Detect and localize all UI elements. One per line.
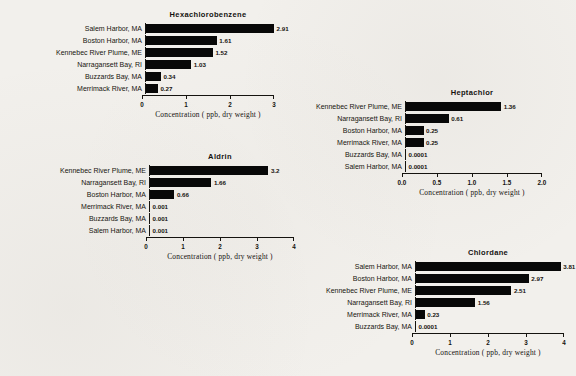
x-tick-label: 1: [448, 338, 452, 347]
bar-track: 2.91: [145, 23, 278, 34]
bar-track: 0.0001: [415, 321, 568, 332]
bar-row: Salem Harbor, MA0.0001: [262, 161, 546, 172]
x-tick-labels: 0123: [142, 100, 274, 109]
bar-track: 3.81: [415, 261, 568, 272]
x-tick: [230, 96, 231, 99]
x-tick-label: 2: [486, 338, 490, 347]
bar-row: Boston Harbor, MA0.66: [6, 189, 298, 200]
x-tick-label: 3: [524, 338, 528, 347]
bar: [150, 178, 211, 186]
x-tick: [563, 334, 564, 337]
bar-row: Merrimack River, MA0.25: [262, 137, 546, 148]
bar: [406, 114, 449, 122]
category-label: Narragansett Bay, RI: [14, 59, 145, 70]
x-tick: [220, 238, 221, 241]
bar: [406, 126, 424, 134]
bar-track: 2.51: [415, 285, 568, 296]
chart-title: Aldrin: [146, 152, 294, 161]
bar-value-label: 0.27: [158, 83, 173, 94]
x-tick: [293, 238, 294, 241]
bar-track: 1.56: [415, 297, 568, 308]
bar-track: 1.36: [405, 101, 546, 112]
bar-value-label: 0.66: [174, 189, 189, 200]
bar-value-label: 0.25: [424, 137, 439, 148]
bar-row: Boston Harbor, MA2.97: [272, 273, 568, 284]
bar-track: 0.25: [405, 137, 546, 148]
chart-title: Hexachlorobenzene: [142, 10, 274, 19]
bar: [146, 48, 213, 56]
x-axis-label: Concentration ( ppb, dry weight ): [402, 188, 542, 197]
bar: [150, 190, 174, 198]
bar-row: Kennebec River Plume, ME1.36: [262, 101, 546, 112]
bar-row: Merrimack River, MA0.23: [272, 309, 568, 320]
bar-value-label: 2.97: [529, 273, 544, 284]
x-tick-label: 3: [255, 242, 259, 251]
x-tick-label: 0.5: [433, 178, 442, 187]
chart-panel-chlordane: ChlordaneSalem Harbor, MA3.81Boston Harb…: [272, 248, 568, 357]
category-label: Merrimack River, MA: [262, 137, 405, 148]
bar-track: 0.27: [145, 83, 278, 94]
bar-track: 0.23: [415, 309, 568, 320]
x-tick: [146, 238, 147, 241]
x-axis-label: Concentration ( ppb, dry weight ): [412, 348, 564, 357]
category-label: Narragansett Bay, RI: [262, 113, 405, 124]
x-tick-label: 1.5: [503, 178, 512, 187]
bar-track: 0.001: [149, 201, 298, 212]
x-tick-label: 2: [218, 242, 222, 251]
bar-track: 1.66: [149, 177, 298, 188]
x-axis-label: Concentration ( ppb, dry weight ): [142, 110, 274, 119]
x-tick-label: 1: [184, 100, 188, 109]
x-tick-label: 0: [410, 338, 414, 347]
bar-track: 0.001: [149, 213, 298, 224]
bar: [416, 298, 475, 306]
bar-row: Salem Harbor, MA0.001: [6, 225, 298, 236]
bar: [146, 72, 161, 80]
bar-track: 0.66: [149, 189, 298, 200]
category-label: Boston Harbor, MA: [14, 35, 145, 46]
category-label: Salem Harbor, MA: [6, 225, 149, 236]
bar-row: Buzzards Bay, MA0.001: [6, 213, 298, 224]
bar-row: Buzzards Bay, MA0.34: [14, 71, 278, 82]
bar-track: 1.61: [145, 35, 278, 46]
chart-title: Chlordane: [412, 248, 564, 257]
bar-row: Narragansett Bay, RI1.56: [272, 297, 568, 308]
bar: [150, 166, 268, 174]
bar-value-label: 0.001: [150, 213, 168, 224]
bar-row: Buzzards Bay, MA0.0001: [272, 321, 568, 332]
category-label: Buzzards Bay, MA: [14, 71, 145, 82]
category-label: Kennebec River Plume, ME: [262, 101, 405, 112]
x-tick: [257, 238, 258, 241]
bar-track: 1.03: [145, 59, 278, 70]
x-tick-label: 1: [181, 242, 185, 251]
bar-value-label: 0.25: [424, 125, 439, 136]
bar: [416, 310, 425, 318]
bar-value-label: 1.56: [475, 297, 490, 308]
bar-track: 0.001: [149, 225, 298, 236]
bar-row: Narragansett Bay, RI1.03: [14, 59, 278, 70]
bar-track: 2.97: [415, 273, 568, 284]
category-label: Boston Harbor, MA: [272, 273, 415, 284]
bar-row: Kennebec River Plume, ME1.52: [14, 47, 278, 58]
chart-panel-hexachlorobenzene: HexachlorobenzeneSalem Harbor, MA2.91Bos…: [14, 10, 278, 119]
bar: [146, 84, 158, 92]
category-label: Kennebec River Plume, ME: [6, 165, 149, 176]
bar-track: 0.0001: [405, 161, 546, 172]
bar: [406, 102, 501, 110]
bar-value-label: 0.61: [449, 113, 464, 124]
category-label: Merrimack River, MA: [14, 83, 145, 94]
bar-row: Kennebec River Plume, ME3.2: [6, 165, 298, 176]
bar-row: Narragansett Bay, RI0.61: [262, 113, 546, 124]
bar-value-label: 1.03: [191, 59, 206, 70]
bar-value-label: 0.0001: [406, 149, 427, 160]
figure-page: { "figure": { "background_color": "#f2f0…: [0, 0, 576, 376]
category-label: Merrimack River, MA: [272, 309, 415, 320]
x-tick: [488, 334, 489, 337]
x-tick-label: 1.0: [468, 178, 477, 187]
category-label: Narragansett Bay, RI: [6, 177, 149, 188]
bar-value-label: 1.52: [213, 47, 228, 58]
bar-value-label: 0.0001: [416, 321, 437, 332]
bar-value-label: 0.001: [150, 201, 168, 212]
bar-value-label: 1.36: [501, 101, 516, 112]
x-tick-labels: 0.00.51.01.52.0: [402, 178, 542, 187]
x-tick-label: 4: [562, 338, 566, 347]
